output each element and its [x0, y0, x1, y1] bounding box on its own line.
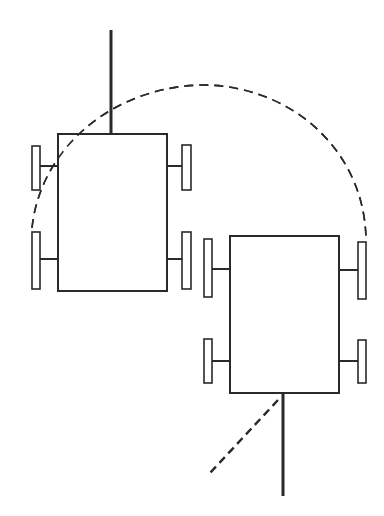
wheel-right	[358, 242, 366, 299]
robot-body	[230, 236, 339, 393]
robot-end	[204, 236, 366, 496]
wheel-right	[182, 145, 191, 190]
angle-dashed-line	[210, 400, 278, 473]
robot-start	[32, 30, 191, 291]
robot-turning-diagram	[0, 0, 384, 516]
wheel-left	[204, 239, 212, 297]
wheel-right	[182, 232, 191, 289]
wheel-left	[32, 146, 40, 190]
wheel-right	[358, 340, 366, 383]
robot-body	[58, 134, 167, 291]
wheel-left	[204, 339, 212, 383]
wheel-left	[32, 232, 40, 289]
